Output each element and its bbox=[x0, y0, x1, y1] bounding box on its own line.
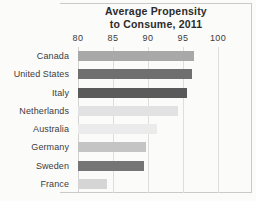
chart-title-line-2: to Consume, 2011 bbox=[58, 18, 254, 31]
bar-united-states bbox=[78, 69, 192, 79]
bar-australia bbox=[78, 124, 157, 134]
bar-italy bbox=[78, 88, 187, 98]
plot-area bbox=[78, 47, 218, 193]
category-row: Italy bbox=[0, 84, 74, 102]
category-row: Australia bbox=[0, 120, 74, 138]
bar-row bbox=[78, 157, 218, 175]
bar-germany bbox=[78, 142, 146, 152]
chart-title-line-1: Average Propensity bbox=[58, 5, 254, 18]
category-label-germany: Germany bbox=[31, 142, 69, 152]
x-tick-label-85: 85 bbox=[108, 33, 119, 43]
bar-row bbox=[78, 138, 218, 156]
category-label-italy: Italy bbox=[52, 88, 69, 98]
category-label-netherlands: Netherlands bbox=[19, 106, 69, 116]
category-row: Netherlands bbox=[0, 102, 74, 120]
x-tick-label-100: 100 bbox=[210, 33, 226, 43]
x-tick-label-95: 95 bbox=[178, 33, 189, 43]
bar-france bbox=[78, 179, 107, 189]
x-tick-label-90: 90 bbox=[143, 33, 154, 43]
bar-chart-figure: Average Propensity to Consume, 2011 8085… bbox=[0, 0, 256, 201]
category-label-australia: Australia bbox=[33, 124, 69, 134]
category-row: Germany bbox=[0, 138, 74, 156]
bar-row bbox=[78, 84, 218, 102]
chart-title: Average Propensity to Consume, 2011 bbox=[58, 5, 254, 30]
category-label-france: France bbox=[40, 179, 69, 189]
bar-row bbox=[78, 65, 218, 83]
category-axis-labels: CanadaUnited StatesItalyNetherlandsAustr… bbox=[0, 47, 74, 193]
category-row: Sweden bbox=[0, 157, 74, 175]
bar-row bbox=[78, 102, 218, 120]
gridline-100 bbox=[218, 47, 219, 193]
category-label-canada: Canada bbox=[37, 51, 69, 61]
bar-row bbox=[78, 175, 218, 193]
bar-canada bbox=[78, 51, 194, 61]
bar-row bbox=[78, 120, 218, 138]
x-axis-tick-labels: 80859095100 bbox=[0, 33, 256, 46]
x-tick-label-80: 80 bbox=[73, 33, 84, 43]
bar-row bbox=[78, 47, 218, 65]
bar-sweden bbox=[78, 161, 144, 171]
category-label-sweden: Sweden bbox=[36, 161, 69, 171]
bar-netherlands bbox=[78, 106, 178, 116]
category-label-united-states: United States bbox=[14, 69, 69, 79]
category-row: Canada bbox=[0, 47, 74, 65]
bar-series bbox=[78, 47, 218, 193]
category-row: France bbox=[0, 175, 74, 193]
category-row: United States bbox=[0, 65, 74, 83]
